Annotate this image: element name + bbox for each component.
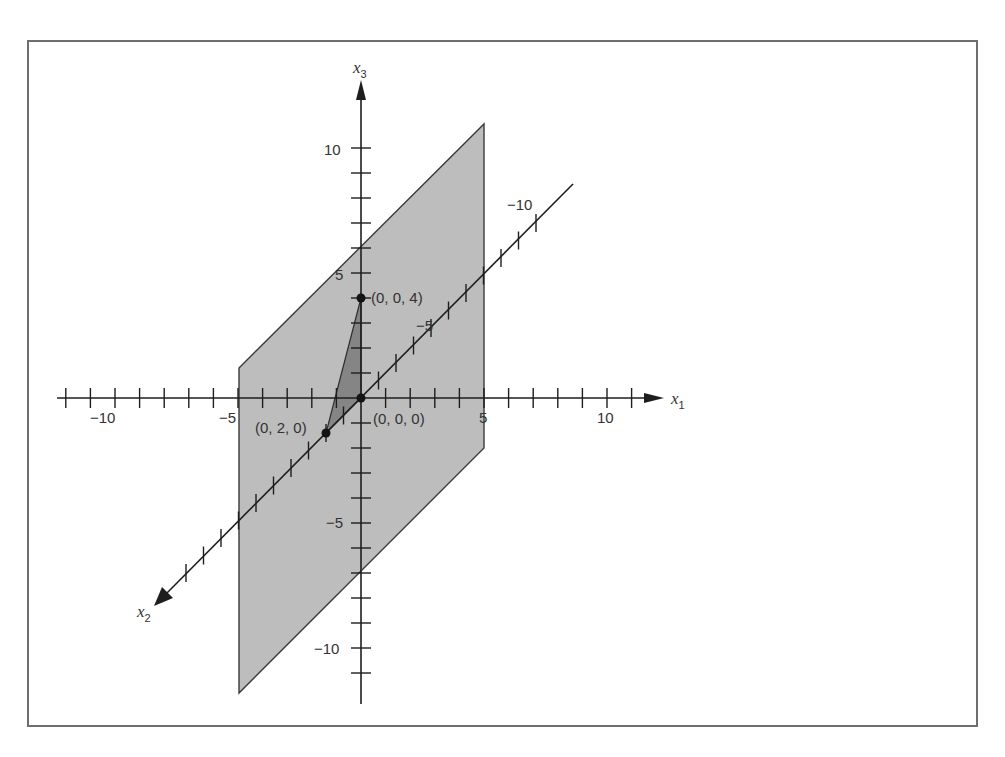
figure-frame [28,41,977,726]
x1-tick-label: −5 [219,409,236,426]
3d-axes-diagram: −10 −5 5 10 x1 10 5 −5 −10 x3 −5 −10 x2 … [0,0,1005,757]
x1-axis-label: x1 [670,389,685,411]
x2-axis-label: x2 [136,602,151,624]
x3-tick-label: 10 [324,141,341,158]
point-label-0-0-4: (0, 0, 4) [371,289,423,306]
x3-tick-label: 5 [335,266,343,283]
point-0-0-4 [357,294,366,303]
x3-axis-label: x3 [352,58,367,80]
point-label-origin: (0, 0, 0) [373,410,425,427]
x1-tick-label: 5 [479,409,487,426]
x3-tick-label: −10 [314,640,339,657]
x2-tick-label: −10 [507,196,532,213]
x1-arrow-icon [644,393,664,403]
x3-arrow-icon [356,80,366,100]
x1-tick-label: −10 [90,409,115,426]
x3-tick-label: −5 [326,514,343,531]
point-0-2-0 [322,429,331,438]
x2-tick-label: −5 [416,317,433,334]
point-label-0-2-0: (0, 2, 0) [255,419,307,436]
point-origin [357,394,366,403]
x1-tick-label: 10 [597,409,614,426]
